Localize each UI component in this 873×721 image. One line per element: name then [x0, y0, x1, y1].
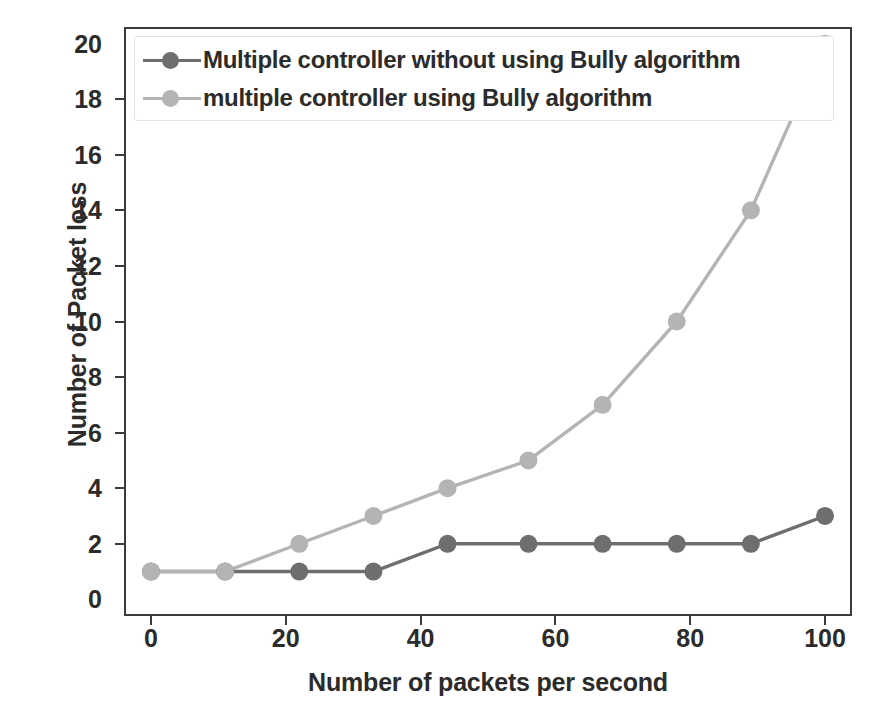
legend-label-0: Multiple controller without using Bully … — [203, 46, 740, 74]
y-tick-label: 4 — [40, 474, 102, 503]
y-axis-tick-labels: 02468101214161820 — [40, 0, 102, 721]
y-tick-label: 18 — [40, 85, 102, 114]
y-tick-label: 8 — [40, 363, 102, 392]
x-tick-label: 20 — [246, 624, 326, 653]
data-point-marker — [439, 535, 457, 553]
data-point-marker — [594, 396, 612, 414]
x-tick-mark — [689, 616, 691, 625]
data-point-marker — [439, 479, 457, 497]
x-tick-mark — [420, 616, 422, 625]
y-tick-mark — [115, 265, 124, 267]
y-tick-mark — [115, 376, 124, 378]
y-tick-mark — [115, 432, 124, 434]
y-tick-label: 2 — [40, 529, 102, 558]
y-tick-label: 16 — [40, 140, 102, 169]
data-point-marker — [216, 563, 234, 581]
data-point-marker — [742, 535, 760, 553]
y-tick-mark — [115, 321, 124, 323]
x-tick-label: 60 — [515, 624, 595, 653]
chart-figure: Number of Packet loss 02468101214161820 … — [0, 0, 873, 721]
data-point-marker — [290, 563, 308, 581]
y-tick-mark — [115, 98, 124, 100]
data-point-marker — [742, 201, 760, 219]
y-tick-mark — [115, 487, 124, 489]
y-tick-label: 6 — [40, 418, 102, 447]
x-tick-label: 100 — [785, 624, 865, 653]
x-tick-label: 40 — [381, 624, 461, 653]
chart-legend: Multiple controller without using Bully … — [134, 36, 834, 121]
legend-item-1: multiple controller using Bully algorith… — [141, 79, 825, 117]
data-point-marker — [668, 313, 686, 331]
x-tick-mark — [150, 616, 152, 625]
x-tick-mark — [824, 616, 826, 625]
legend-dot-icon — [162, 52, 179, 69]
legend-marker-light — [141, 86, 203, 110]
y-tick-label: 12 — [40, 251, 102, 280]
x-tick-mark — [554, 616, 556, 625]
data-point-marker — [668, 535, 686, 553]
data-point-marker — [364, 563, 382, 581]
y-tick-label: 0 — [40, 585, 102, 614]
data-point-marker — [290, 535, 308, 553]
x-tick-mark — [285, 616, 287, 625]
x-axis-title: Number of packets per second — [124, 668, 852, 697]
data-point-marker — [364, 507, 382, 525]
legend-label-1: multiple controller using Bully algorith… — [203, 84, 652, 112]
data-point-marker — [816, 507, 834, 525]
y-tick-mark — [115, 209, 124, 211]
y-tick-label: 10 — [40, 307, 102, 336]
y-tick-label: 14 — [40, 196, 102, 225]
x-tick-label: 80 — [650, 624, 730, 653]
legend-item-0: Multiple controller without using Bully … — [141, 41, 825, 79]
legend-marker-dark — [141, 48, 203, 72]
x-tick-label: 0 — [111, 624, 191, 653]
y-tick-label: 20 — [40, 29, 102, 58]
data-point-marker — [142, 563, 160, 581]
data-point-marker — [519, 535, 537, 553]
y-tick-mark — [115, 543, 124, 545]
data-point-marker — [594, 535, 612, 553]
series-line-1 — [151, 44, 825, 572]
data-point-marker — [519, 451, 537, 469]
legend-dot-icon — [162, 90, 179, 107]
y-tick-mark — [115, 154, 124, 156]
